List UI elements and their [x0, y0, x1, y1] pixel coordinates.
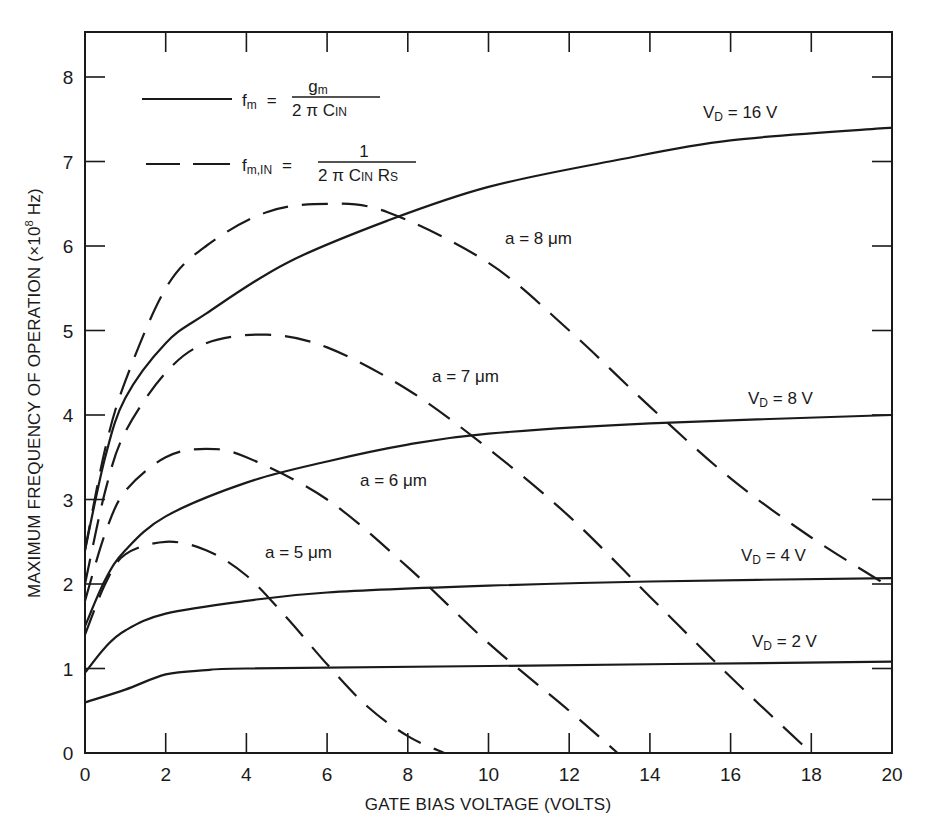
curve-v-d-4-v [85, 578, 892, 673]
y-tick-labels: 012345678 [63, 67, 74, 764]
label-a-6: a = 6 μm [360, 471, 427, 490]
y-tick-label: 1 [63, 659, 74, 680]
label-vd-8: VD = 8 V [748, 389, 814, 410]
chart: 02468101214161820 012345678 GATE BIAS VO… [0, 0, 926, 835]
x-tick-label: 12 [559, 764, 580, 785]
label-vd-4: VD = 4 V [741, 546, 807, 567]
y-tick-label: 2 [63, 574, 74, 595]
y-tick-label: 8 [63, 67, 74, 88]
y-tick-label: 7 [63, 152, 74, 173]
legend: fm= gm 2 π CIN fm,IN= 1 2 π CIN RS [142, 77, 416, 185]
legend-dashed-numerator: 1 [359, 142, 368, 161]
label-vd-2: VD = 2 V [752, 632, 818, 653]
curve-a-5-m [85, 542, 444, 753]
y-axis-title: MAXIMUM FREQUENCY OF OPERATION (×108 Hz) [23, 188, 44, 598]
curve-v-d-2-v [85, 662, 892, 703]
legend-dashed-denominator: 2 π CIN RS [318, 166, 398, 185]
curve-v-d-16-v [85, 128, 892, 551]
x-tick-label: 0 [80, 764, 91, 785]
x-tick-label: 8 [403, 764, 414, 785]
legend-solid-numerator: gm [308, 77, 327, 97]
y-tick-label: 4 [63, 405, 74, 426]
x-tick-label: 6 [322, 764, 333, 785]
x-tick-label: 16 [720, 764, 741, 785]
curve-v-d-8-v [85, 415, 892, 626]
x-tick-labels: 02468101214161820 [80, 764, 903, 785]
x-tick-label: 18 [801, 764, 822, 785]
legend-solid-denominator: 2 π CIN [292, 101, 347, 120]
y-tick-label: 5 [63, 321, 74, 342]
x-tick-label: 14 [639, 764, 661, 785]
x-tick-label: 2 [160, 764, 171, 785]
legend-solid-label: fm= [242, 91, 277, 112]
series-group [85, 128, 892, 753]
x-tick-label: 20 [881, 764, 902, 785]
label-a-8: a = 8 μm [505, 229, 572, 248]
x-tick-label: 4 [241, 764, 252, 785]
legend-dashed-label: fm,IN= [242, 156, 292, 177]
label-vd-16: VD = 16 V [703, 103, 778, 124]
curve-a-7-m [85, 335, 811, 753]
curve-a-6-m [85, 449, 618, 753]
y-tick-label: 3 [63, 490, 74, 511]
y-tick-label: 6 [63, 236, 74, 257]
label-a-5: a = 5 μm [265, 543, 332, 562]
y-tick-label: 0 [63, 743, 74, 764]
x-axis-title: GATE BIAS VOLTAGE (VOLTS) [365, 795, 612, 814]
label-a-7: a = 7 μm [432, 367, 499, 386]
x-tick-label: 10 [478, 764, 499, 785]
